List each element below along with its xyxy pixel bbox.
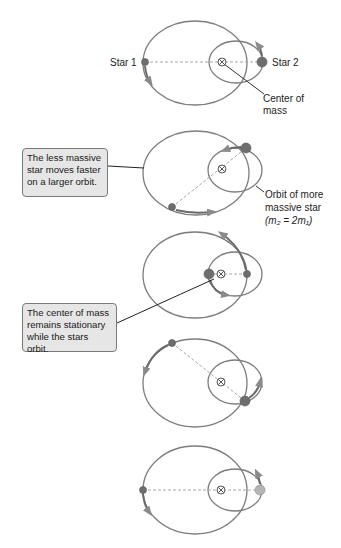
binary-star-orbit-diagram: Star 1 Star 2 Center of mass Orbit of mo…: [0, 0, 341, 548]
motion-arrow-star1: [176, 210, 212, 213]
center-of-mass-icon: [218, 58, 226, 66]
star-1: [142, 59, 149, 66]
panel-1: Star 1 Star 2 Center of mass: [110, 21, 304, 116]
orbit-leader-line: [256, 186, 264, 192]
callout-less-massive-star: The less massive star moves faster on a …: [22, 148, 108, 197]
star-1: [169, 204, 176, 211]
star-1: [169, 340, 176, 347]
star-2: [241, 143, 251, 153]
panel-5: [140, 446, 266, 534]
star-2: [240, 396, 250, 406]
motion-arrow-star1: [143, 494, 149, 512]
motion-arrow-star2: [249, 382, 260, 398]
star-2: [255, 485, 265, 495]
orbit-star2: [208, 360, 262, 404]
center-of-mass-icon: [217, 270, 225, 278]
center-of-mass-icon: [217, 378, 225, 386]
motion-arrow-star2: [210, 280, 226, 295]
center-of-mass-icon: [217, 486, 225, 494]
connecting-dashed-line: [172, 148, 246, 207]
star1-label: Star 1: [110, 57, 137, 68]
com-leader-line: [224, 64, 264, 94]
star-1: [244, 271, 251, 278]
star2-label: Star 2: [272, 57, 299, 68]
mass-ratio-label: (m₂ = 2m₁): [265, 215, 312, 226]
star-2: [257, 57, 267, 67]
orbit-label-line1: Orbit of more: [265, 189, 324, 200]
com-label-line2: mass: [263, 105, 287, 116]
motion-arrow-star1: [145, 66, 150, 82]
callout-2-leader-line: [117, 279, 214, 323]
orbit-star1: [143, 21, 247, 105]
panel-4: [143, 339, 262, 427]
orbit-label-line2: massive star: [265, 202, 322, 213]
orbit-star1: [143, 232, 247, 318]
connecting-dashed-line: [172, 343, 245, 401]
panel-2: Orbit of more massive star (m₂ = 2m₁): [108, 131, 324, 226]
center-of-mass-icon: [218, 165, 226, 173]
orbit-star2: [208, 148, 262, 192]
motion-arrow-star1: [145, 345, 168, 372]
star-1: [140, 487, 147, 494]
com-label-line1: Center of: [263, 93, 304, 104]
star-2: [204, 269, 214, 279]
callout-center-of-mass: The center of mass remains stationary wh…: [22, 303, 117, 352]
panel-3: [117, 232, 262, 323]
orbit-star1: [143, 131, 249, 215]
callout-1-leader-line: [108, 166, 144, 168]
